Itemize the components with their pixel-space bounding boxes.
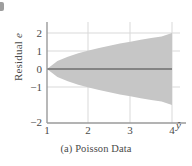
y-tick-label-2: 2	[37, 27, 43, 39]
y-tick-label-0: 0	[37, 63, 43, 75]
residual-plot: 2 1 0 −1 −2 1 2 3 4 Residual e ŷ	[0, 0, 192, 136]
x-tick-label-4: 4	[169, 124, 175, 136]
figure-caption: (a) Poisson Data	[0, 143, 192, 154]
residual-plot-canvas: 2 1 0 −1 −2 1 2 3 4	[0, 0, 192, 136]
x-tick-label-2: 2	[85, 124, 91, 136]
figure-root: 2 1 0 −1 −2 1 2 3 4 Residual e ŷ (a) Poi…	[0, 0, 192, 166]
y-tick-labels: 2 1 0 −1 −2	[30, 27, 42, 128]
x-axis-title: ŷ	[176, 120, 181, 131]
y-tick-label-neg1: −1	[30, 81, 42, 93]
y-axis-title-prefix: Residual	[12, 38, 24, 81]
y-axis-title: Residual e	[12, 12, 24, 102]
y-tick-label-1: 1	[37, 45, 43, 57]
y-tick-label-neg2: −2	[30, 116, 42, 128]
x-tick-label-1: 1	[44, 124, 50, 136]
x-tick-label-3: 3	[127, 124, 133, 136]
x-tick-labels: 1 2 3 4	[44, 124, 175, 136]
y-axis-title-symbol: e	[12, 33, 24, 38]
